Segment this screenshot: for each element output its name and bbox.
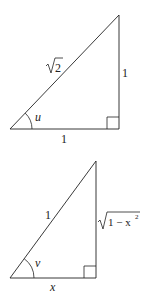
triangle-u: 2 1 1 u: [10, 15, 128, 146]
base-side-label: 1: [61, 132, 67, 146]
hypotenuse-label: 1: [45, 208, 51, 222]
vertical-side-label: 1 − x 2: [98, 212, 140, 229]
right-angle-marker: [107, 117, 119, 129]
angle-label: u: [35, 110, 41, 124]
base-side-label: x: [49, 280, 56, 294]
triangles-figure: 2 1 1 u 1 1 − x 2 x v: [0, 0, 144, 294]
angle-label: v: [35, 256, 41, 270]
hypotenuse-radicand: 2: [55, 61, 61, 75]
triangle-u-outline: [10, 15, 119, 129]
vertical-side-label: 1: [122, 66, 128, 80]
vertical-radicand: 1 − x: [108, 216, 131, 228]
vertical-exponent: 2: [135, 213, 139, 221]
triangle-v-outline: [10, 161, 96, 278]
angle-arc: [25, 113, 32, 129]
triangle-v: 1 1 − x 2 x v: [10, 161, 140, 294]
right-angle-marker: [84, 266, 96, 278]
angle-arc: [24, 259, 34, 278]
hypotenuse-label: 2: [46, 58, 63, 75]
